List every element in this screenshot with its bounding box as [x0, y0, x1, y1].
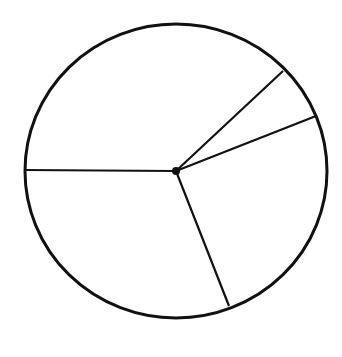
slice-dividers: [24, 71, 316, 306]
slice-divider-3: [176, 171, 229, 306]
slice-divider-0: [24, 170, 176, 171]
center-dot: [172, 167, 180, 175]
pie-chart: [0, 0, 342, 357]
slice-divider-2: [176, 116, 316, 171]
slice-divider-1: [176, 71, 283, 171]
